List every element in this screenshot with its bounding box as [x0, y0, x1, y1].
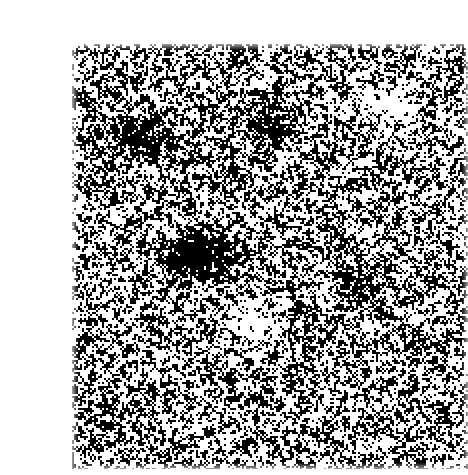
binary-noise-bitmap: [72, 44, 468, 469]
noise-figure: [72, 44, 468, 469]
